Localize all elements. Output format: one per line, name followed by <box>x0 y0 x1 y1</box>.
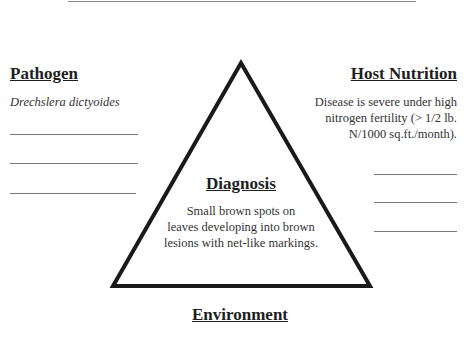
host-nutrition-line-2: nitrogen fertility (> 1/2 lb. <box>315 110 457 126</box>
pathogen-blank-line-1 <box>10 134 138 135</box>
diagnosis-line-1: Small brown spots on <box>0 203 467 219</box>
diagnosis-text: Small brown spots on leaves developing i… <box>0 203 467 251</box>
host-nutrition-heading: Host Nutrition <box>351 64 457 84</box>
host-nutrition-line-3: N/1000 sq.ft./month). <box>315 126 457 142</box>
diagnosis-line-3: lesions with net-like markings. <box>0 235 467 251</box>
pathogen-heading: Pathogen <box>10 64 78 84</box>
environment-heading: Environment <box>0 305 467 325</box>
pathogen-blank-line-2 <box>10 163 138 164</box>
disease-triangle <box>0 0 467 337</box>
diagnosis-heading: Diagnosis <box>0 174 467 194</box>
diagnosis-line-2: leaves developing into brown <box>0 219 467 235</box>
host-nutrition-text: Disease is severe under high nitrogen fe… <box>315 94 457 142</box>
host-nutrition-line-1: Disease is severe under high <box>315 94 457 110</box>
pathogen-value: Drechslera dictyoides <box>10 94 120 110</box>
